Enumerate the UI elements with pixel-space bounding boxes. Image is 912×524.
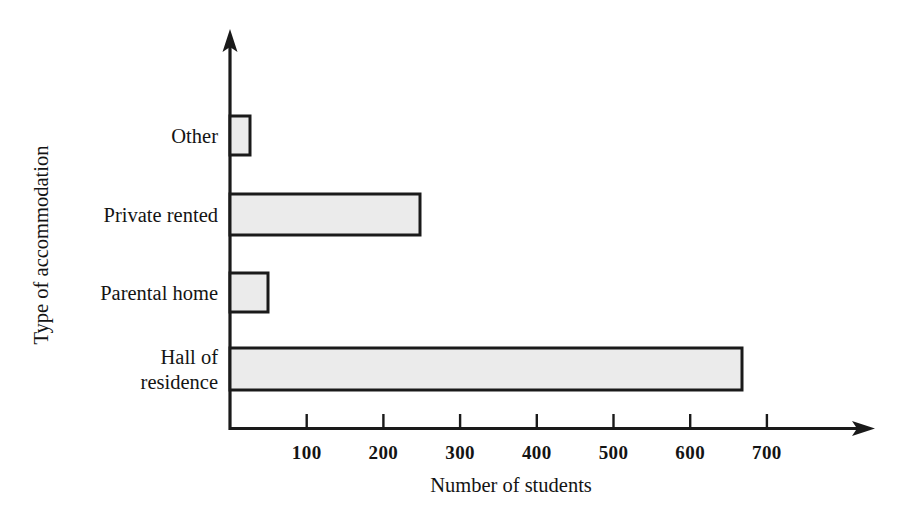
x-tick-label-400: 400 bbox=[522, 442, 552, 463]
category-label-hall-of-residence-line2: residence bbox=[141, 371, 218, 393]
category-label-parental-home: Parental home bbox=[100, 282, 218, 304]
x-tick-label-700: 700 bbox=[752, 442, 782, 463]
category-label-private-rented: Private rented bbox=[104, 204, 218, 226]
category-label-other: Other bbox=[171, 125, 218, 147]
chart-canvas: 100 200 300 400 500 600 700 Other Privat… bbox=[0, 0, 912, 524]
y-axis-title: Type of accommodation bbox=[30, 146, 53, 345]
bar-private-rented[interactable] bbox=[230, 194, 420, 235]
x-tick-label-100: 100 bbox=[292, 442, 322, 463]
x-tick-label-600: 600 bbox=[675, 442, 705, 463]
x-axis-ticks bbox=[307, 414, 767, 429]
x-axis bbox=[230, 421, 875, 436]
bars-group bbox=[230, 116, 742, 390]
bar-other[interactable] bbox=[230, 116, 250, 155]
bar-parental-home[interactable] bbox=[230, 273, 268, 312]
x-tick-label-500: 500 bbox=[599, 442, 629, 463]
x-tick-label-200: 200 bbox=[369, 442, 399, 463]
bar-chart: 100 200 300 400 500 600 700 Other Privat… bbox=[0, 0, 912, 524]
x-tick-label-300: 300 bbox=[445, 442, 475, 463]
bar-hall-of-residence[interactable] bbox=[230, 348, 742, 390]
x-axis-tick-labels: 100 200 300 400 500 600 700 bbox=[292, 442, 782, 463]
category-labels: Other Private rented Parental home Hall … bbox=[100, 125, 218, 393]
x-axis-title: Number of students bbox=[430, 474, 592, 496]
category-label-hall-of-residence-line1: Hall of bbox=[161, 346, 219, 368]
